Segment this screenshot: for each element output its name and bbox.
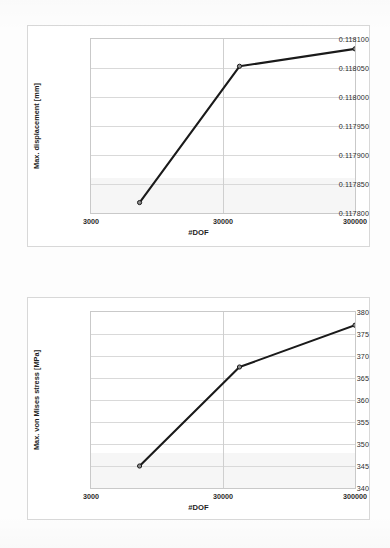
y-axis-tick-label: 360	[311, 396, 369, 405]
x-axis-tick-label: 30000	[213, 492, 233, 501]
y-axis-tick-label: 345	[311, 462, 369, 471]
chart-max-von-mises-stress: 380375370365360355350345340 300030000300…	[27, 297, 370, 520]
chart-max-displacement: 0.1181000.1180500.1180000.1179500.117900…	[27, 25, 370, 247]
y-axis-tick-label: 0.117850	[311, 180, 369, 189]
x-axis-tick-label: 30000	[213, 217, 233, 226]
data-point-marker	[353, 323, 356, 327]
y-axis-tick-label: 0.118050	[311, 64, 369, 73]
y-axis-tick-label: 0.118100	[311, 35, 369, 44]
data-point-marker	[137, 464, 141, 468]
y-axis-title-top: Max. displacement [mm]	[32, 83, 41, 169]
data-point-marker	[237, 64, 241, 68]
data-point-marker	[237, 365, 241, 369]
x-axis-title-top: #DOF	[28, 228, 369, 237]
x-axis-tick-label: 3000	[83, 217, 99, 226]
x-axis-tick-label: 300000	[343, 217, 367, 226]
y-axis-tick-label: 365	[311, 374, 369, 383]
chart-top-plot-wrapper: 0.1181000.1180500.1180000.1179500.117900…	[28, 26, 369, 246]
y-axis-tick-label: 375	[311, 330, 369, 339]
y-axis-tick-label: 350	[311, 440, 369, 449]
y-axis-tick-label: 370	[311, 352, 369, 361]
data-point-marker	[137, 200, 141, 204]
y-axis-tick-label: 0.117900	[311, 151, 369, 160]
y-axis-tick-label: 0.118000	[311, 93, 369, 102]
y-axis-tick-label: 0.117950	[311, 122, 369, 131]
x-axis-tick-label: 3000	[83, 492, 99, 501]
data-point-marker	[353, 47, 356, 51]
x-axis-tick-label: 300000	[343, 492, 367, 501]
y-axis-title-bottom: Max. von Mises stress [MPa]	[32, 350, 41, 450]
y-axis-tick-label: 380	[311, 308, 369, 317]
y-axis-tick-label: 355	[311, 418, 369, 427]
x-axis-title-bottom: #DOF	[28, 503, 369, 512]
chart-bottom-plot-wrapper: 380375370365360355350345340 300030000300…	[28, 298, 369, 519]
